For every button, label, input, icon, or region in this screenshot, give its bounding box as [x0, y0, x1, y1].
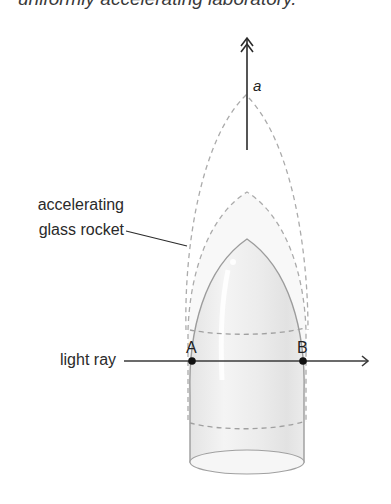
acceleration-label: a: [253, 77, 261, 94]
rocket-base: [190, 450, 304, 474]
light-ray-label: light ray: [60, 351, 116, 369]
rocket-diagram: [0, 0, 391, 504]
point-b-label: B: [297, 339, 308, 357]
point-b-dot: [299, 357, 307, 365]
rocket-label-line2: glass rocket: [30, 221, 124, 239]
rocket-label-line1: accelerating: [30, 196, 124, 214]
point-a-dot: [188, 357, 196, 365]
point-a-label: A: [186, 339, 197, 357]
rocket-leader-line: [126, 231, 187, 246]
